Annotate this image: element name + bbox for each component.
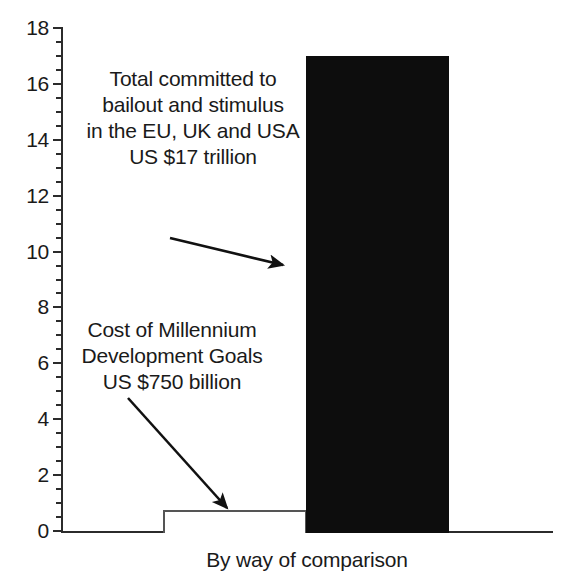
y-axis-tick-label: 10	[1, 241, 49, 262]
y-axis-minor-tick	[56, 516, 63, 518]
y-axis-tick-label: 6	[1, 352, 49, 373]
y-axis-minor-tick	[56, 167, 63, 169]
y-axis-major-tick	[53, 418, 63, 420]
y-axis-minor-tick	[56, 488, 63, 490]
y-axis-minor-tick	[56, 97, 63, 99]
y-axis-tick-label: 16	[1, 73, 49, 94]
y-axis-major-tick	[53, 530, 63, 532]
y-axis-minor-tick	[56, 404, 63, 406]
y-axis-minor-tick	[56, 446, 63, 448]
y-axis-tick-label: 0	[1, 520, 49, 541]
y-axis-minor-tick	[56, 69, 63, 71]
y-axis-minor-tick	[56, 209, 63, 211]
y-axis-major-tick	[53, 474, 63, 476]
y-axis-minor-tick	[56, 502, 63, 504]
y-axis-minor-tick	[56, 265, 63, 267]
y-axis-minor-tick	[56, 41, 63, 43]
y-axis-minor-tick	[56, 125, 63, 127]
y-axis-minor-tick	[56, 279, 63, 281]
arrow-to-mdg-bar	[128, 398, 227, 508]
y-axis-minor-tick	[56, 55, 63, 57]
y-axis-minor-tick	[56, 460, 63, 462]
y-axis-major-tick	[53, 139, 63, 141]
y-axis-major-tick	[53, 195, 63, 197]
y-axis-minor-tick	[56, 292, 63, 294]
bar-millennium-development-goals	[163, 510, 307, 533]
y-axis-minor-tick	[56, 181, 63, 183]
y-axis-tick-label: 8	[1, 296, 49, 317]
y-axis-minor-tick	[56, 223, 63, 225]
x-axis-caption: By way of comparison	[61, 548, 553, 572]
y-axis-minor-tick	[56, 153, 63, 155]
y-axis-major-tick	[53, 251, 63, 253]
y-axis-minor-tick	[56, 432, 63, 434]
y-axis-minor-tick	[56, 111, 63, 113]
bar-chart: 024681012141618 Total committed to bailo…	[0, 0, 573, 586]
y-axis-tick-label: 14	[1, 129, 49, 150]
y-axis-tick-label: 12	[1, 185, 49, 206]
bar-bailout-stimulus	[306, 56, 449, 533]
y-axis-tick-label: 2	[1, 464, 49, 485]
y-axis-tick-label: 18	[1, 17, 49, 38]
mdg-annotation-label: Cost of Millennium Development Goals US …	[56, 317, 288, 395]
arrow-to-bailout-bar	[170, 238, 283, 265]
y-axis-major-tick	[53, 306, 63, 308]
y-axis-major-tick	[53, 83, 63, 85]
y-axis-major-tick	[53, 27, 63, 29]
y-axis-minor-tick	[56, 237, 63, 239]
y-axis-tick-label: 4	[1, 408, 49, 429]
bailout-annotation-label: Total committed to bailout and stimulus …	[63, 66, 323, 170]
